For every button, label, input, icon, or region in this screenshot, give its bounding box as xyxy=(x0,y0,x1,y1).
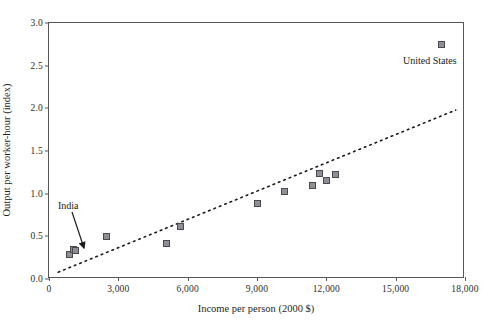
annotation-united-states: United States xyxy=(403,55,457,66)
x-tick-mark xyxy=(465,277,466,281)
x-tick-label: 9,000 xyxy=(246,284,268,294)
y-axis-label: Output per worker-hour (index) xyxy=(1,83,12,216)
x-tick-label: 6,000 xyxy=(176,284,198,294)
x-tick-mark xyxy=(118,277,119,281)
x-tick-label: 15,000 xyxy=(382,284,409,294)
y-tick-label: 1.0 xyxy=(31,189,43,199)
plot-inner: 0.00.51.01.52.02.53.003,0006,0009,00012,… xyxy=(49,23,463,277)
y-tick-label: 0.0 xyxy=(31,274,43,284)
data-point-marker xyxy=(254,200,261,207)
data-point-marker xyxy=(281,188,288,195)
y-tick-label: 0.5 xyxy=(31,231,43,241)
x-tick-mark xyxy=(49,277,50,281)
x-tick-label: 0 xyxy=(47,284,52,294)
data-point-marker xyxy=(309,182,316,189)
data-point-marker xyxy=(103,233,110,240)
x-tick-label: 12,000 xyxy=(313,284,340,294)
y-tick-mark xyxy=(45,108,49,109)
x-tick-label: 3,000 xyxy=(107,284,129,294)
y-tick-label: 2.0 xyxy=(31,103,43,113)
y-tick-label: 1.5 xyxy=(31,146,43,156)
annotation-india: India xyxy=(58,200,79,211)
data-point-marker xyxy=(316,170,323,177)
data-point-marker xyxy=(323,177,330,184)
data-point-marker xyxy=(438,41,445,48)
x-tick-label: 18,000 xyxy=(451,284,478,294)
y-tick-mark xyxy=(45,23,49,24)
data-point-marker xyxy=(332,171,339,178)
plot-area: 0.00.51.01.52.02.53.003,0006,0009,00012,… xyxy=(48,22,464,278)
x-axis-label: Income per person (2000 $) xyxy=(198,303,315,314)
x-tick-mark xyxy=(326,277,327,281)
y-tick-mark xyxy=(45,151,49,152)
x-tick-mark xyxy=(396,277,397,281)
y-tick-label: 3.0 xyxy=(31,18,43,28)
y-tick-mark xyxy=(45,236,49,237)
data-point-marker xyxy=(177,223,184,230)
data-point-marker xyxy=(72,247,79,254)
scatter-chart-figure: Output per worker-hour (index) Income pe… xyxy=(0,0,494,335)
y-tick-label: 2.5 xyxy=(31,61,43,71)
x-tick-mark xyxy=(257,277,258,281)
y-tick-mark xyxy=(45,193,49,194)
y-tick-mark xyxy=(45,65,49,66)
x-tick-mark xyxy=(188,277,189,281)
data-point-marker xyxy=(163,240,170,247)
